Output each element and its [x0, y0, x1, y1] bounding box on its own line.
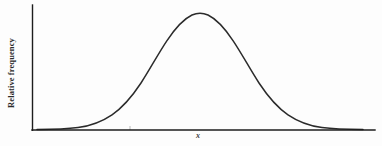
x-axis-label: x	[180, 131, 216, 140]
y-axis-label: Relative frequency	[0, 0, 22, 146]
relative-frequency-chart: Relative frequency x	[0, 0, 382, 146]
normal-distribution-curve	[37, 13, 363, 129]
plot-area	[0, 0, 382, 146]
